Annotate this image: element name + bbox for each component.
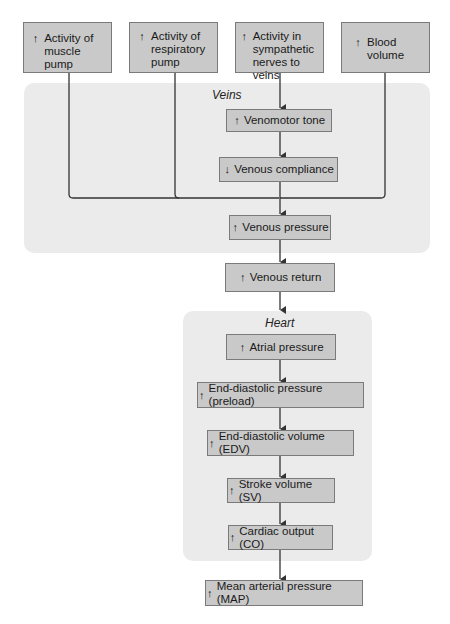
- node-atrial-pressure: ↑ Atrial pressure: [226, 334, 336, 360]
- node-label: Venous pressure: [242, 221, 328, 234]
- increase-arrow-icon: ↑: [32, 32, 39, 45]
- increase-arrow-icon: ↑: [238, 341, 246, 354]
- veins-label: Veins: [212, 88, 242, 102]
- input-label: Blood volume: [367, 36, 404, 62]
- node-label: Venous return: [250, 271, 322, 284]
- node-label: Cardiac output (CO): [239, 525, 332, 551]
- input-respiratory-pump: ↑ Activity of respiratory pump: [129, 22, 218, 73]
- increase-arrow-icon: ↑: [239, 271, 247, 284]
- node-end-diastolic-volume: ↑ End-diastolic volume (EDV): [207, 430, 354, 456]
- node-venous-pressure: ↑ Venous pressure: [229, 215, 331, 240]
- node-label: Venous compliance: [234, 163, 334, 176]
- node-stroke-volume: ↑ Stroke volume (SV): [227, 478, 335, 503]
- node-venous-compliance: ↓ Venous compliance: [219, 157, 338, 182]
- input-label: Activity of respiratory pump: [151, 30, 205, 69]
- input-sympathetic-nerves: ↑ Activity in sympathetic nerves to vein…: [235, 22, 324, 73]
- node-label: Mean arterial pressure (MAP): [217, 580, 362, 606]
- node-mean-arterial-pressure: ↑ Mean arterial pressure (MAP): [205, 580, 363, 606]
- input-blood-volume: ↑ Blood volume: [341, 22, 430, 73]
- increase-arrow-icon: ↑: [233, 114, 241, 127]
- node-label: Venomotor tone: [244, 114, 325, 127]
- increase-arrow-icon: ↑: [354, 36, 362, 49]
- increase-arrow-icon: ↑: [229, 531, 236, 544]
- node-label: End-diastolic volume (EDV): [219, 430, 353, 456]
- node-label: Atrial pressure: [249, 341, 323, 354]
- increase-arrow-icon: ↑: [198, 389, 206, 402]
- input-label: Activity of muscle pump: [44, 32, 105, 71]
- node-label: Stroke volume (SV): [239, 478, 334, 504]
- increase-arrow-icon: ↑: [206, 587, 214, 600]
- input-label: Activity in sympathetic nerves to veins: [253, 30, 317, 82]
- node-venomotor-tone: ↑ Venomotor tone: [226, 109, 332, 132]
- heart-label: Heart: [265, 316, 294, 330]
- node-venous-return: ↑ Venous return: [225, 263, 335, 292]
- decrease-arrow-icon: ↓: [223, 163, 231, 176]
- increase-arrow-icon: ↑: [231, 221, 239, 234]
- increase-arrow-icon: ↑: [208, 437, 216, 450]
- increase-arrow-icon: ↑: [138, 30, 146, 43]
- node-cardiac-output: ↑ Cardiac output (CO): [228, 525, 333, 550]
- node-end-diastolic-pressure: ↑ End-diastolic pressure (preload): [197, 382, 364, 408]
- input-muscle-pump: ↑ Activity of muscle pump: [23, 22, 112, 73]
- increase-arrow-icon: ↑: [228, 484, 236, 497]
- node-label: End-diastolic pressure (preload): [209, 382, 363, 408]
- increase-arrow-icon: ↑: [241, 30, 248, 43]
